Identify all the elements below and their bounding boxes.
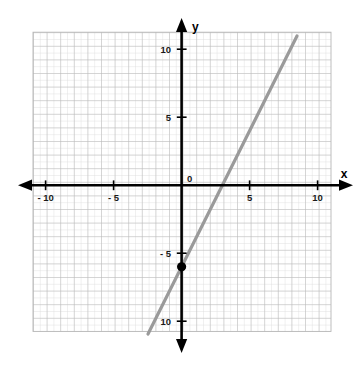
y-axis-label: y: [192, 20, 199, 34]
x-axis-label: x: [341, 167, 348, 181]
y-tick-label-neg5: - 5: [160, 248, 172, 259]
point-marker-0-neg6: [177, 262, 186, 271]
x-axis-left-arrow: [18, 180, 32, 191]
x-tick-label-pos5: 5: [247, 192, 253, 203]
coordinate-plane-figure: - 10 - 5 5 10 10 5 - 5 10 0 x y: [0, 0, 361, 370]
marked-point-layer: [177, 262, 186, 271]
y-tick-label-pos5: 5: [166, 112, 172, 123]
y-axis-top-arrow: [176, 18, 187, 32]
x-tick-label-neg10: - 10: [37, 192, 53, 203]
y-tick-label-pos10: 10: [160, 44, 171, 55]
x-axis-right-arrow: [339, 180, 353, 191]
x-tick-label-pos10: 10: [312, 192, 323, 203]
origin-label: 0: [187, 173, 192, 184]
x-tick-label-neg5: - 5: [108, 192, 120, 203]
y-axis-bottom-arrow: [176, 339, 187, 353]
graph-canvas: - 10 - 5 5 10 10 5 - 5 10 0 x y: [0, 0, 361, 370]
y-tick-label-neg10: 10: [160, 316, 171, 327]
